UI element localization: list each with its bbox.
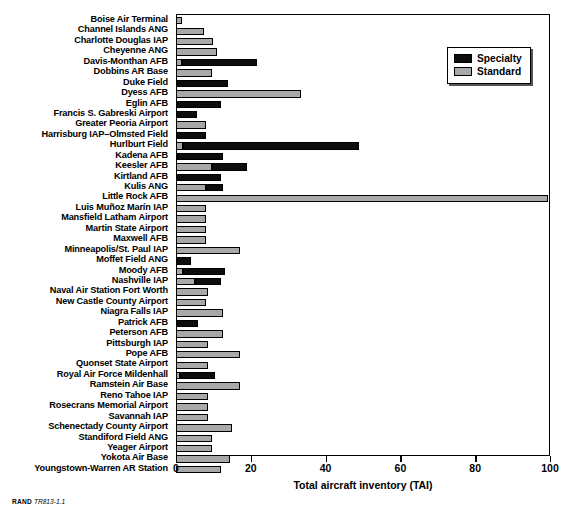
legend-label-specialty: Specialty — [477, 53, 522, 64]
category-label: Pittsburgh IAP — [0, 338, 172, 348]
bar-row — [176, 350, 550, 360]
bar-segment-standard — [176, 121, 206, 128]
category-label: Duke Field — [0, 77, 172, 87]
bar-row — [176, 183, 550, 193]
category-label: Standiford Field ANG — [0, 432, 172, 442]
figure-source-note: RAND TR813-1.1 — [12, 498, 65, 505]
bar-segment-standard — [176, 299, 206, 306]
bar-segment-standard — [176, 163, 212, 170]
bar-row — [176, 392, 550, 402]
bar-row — [176, 371, 550, 381]
x-axis-tick-label: 80 — [469, 462, 481, 474]
bar-segment-standard — [176, 69, 212, 76]
category-label: Moffet Field ANG — [0, 254, 172, 264]
legend-label-standard: Standard — [477, 66, 521, 77]
bar-segment-specialty — [182, 59, 258, 66]
legend-entry-standard: Standard — [454, 65, 522, 78]
bar-segment-standard — [176, 215, 206, 222]
bar-row — [176, 152, 550, 162]
bar-segment-standard — [176, 330, 223, 337]
bar-row — [176, 89, 550, 99]
category-label: Luis Muñoz Marín IAP — [0, 202, 172, 212]
bar-row — [176, 423, 550, 433]
category-label: Dobbins AR Base — [0, 66, 172, 76]
category-label: Greater Peoria Airport — [0, 118, 172, 128]
bar-segment-standard — [176, 184, 206, 191]
category-label: Kulis ANG — [0, 181, 172, 191]
bar-segment-specialty — [176, 80, 228, 87]
bar-segment-specialty — [176, 174, 221, 181]
bar-row — [176, 267, 550, 277]
footer-code: TR813-1.1 — [34, 498, 65, 505]
bar-row — [176, 277, 550, 287]
bar-segment-specialty — [176, 111, 197, 118]
bar-row — [176, 298, 550, 308]
category-label: Boise Air Terminal — [0, 14, 172, 24]
category-label: Nashville IAP — [0, 275, 172, 285]
category-label: Hurlburt Field — [0, 139, 172, 149]
bar-row — [176, 37, 550, 47]
bar-segment-standard — [176, 205, 206, 212]
bar-row — [176, 360, 550, 370]
bar-row — [176, 214, 550, 224]
bar-row — [176, 141, 550, 151]
x-axis-tick-label: 100 — [541, 462, 559, 474]
category-label: Rosecrans Memorial Airport — [0, 400, 172, 410]
bar-row — [176, 173, 550, 183]
bar-segment-standard — [176, 236, 206, 243]
category-label: Mansfield Latham Airport — [0, 212, 172, 222]
bar-segment-standard — [176, 195, 548, 202]
category-label-column: Boise Air TerminalChannel Islands ANGCha… — [0, 14, 172, 473]
bar-row — [176, 235, 550, 245]
category-label: Kirtland AFB — [0, 171, 172, 181]
bar-row — [176, 256, 550, 266]
legend-swatch-specialty-icon — [454, 54, 472, 63]
category-label: Yeager Airport — [0, 442, 172, 452]
bar-row — [176, 131, 550, 141]
category-label: Youngstown-Warren AR Station — [0, 463, 172, 473]
bar-row — [176, 26, 550, 36]
category-label: Cheyenne ANG — [0, 45, 172, 55]
x-axis-tick-label: 60 — [395, 462, 407, 474]
bar-row — [176, 340, 550, 350]
legend-swatch-standard-icon — [454, 67, 472, 76]
bar-segment-standard — [176, 414, 208, 421]
bar-row — [176, 329, 550, 339]
bar-segment-standard — [176, 351, 240, 358]
bar-row — [176, 100, 550, 110]
category-label: Quonset State Airport — [0, 358, 172, 368]
category-label: Yokota Air Base — [0, 452, 172, 462]
bar-segment-specialty — [180, 372, 216, 379]
bar-segment-specialty — [195, 278, 221, 285]
bar-segment-standard — [176, 38, 213, 45]
category-label: Peterson AFB — [0, 327, 172, 337]
category-label: Patrick AFB — [0, 317, 172, 327]
bar-segment-specialty — [206, 184, 223, 191]
bar-segment-standard — [176, 226, 206, 233]
category-label: Minneapolis/St. Paul IAP — [0, 244, 172, 254]
bar-segment-specialty — [176, 101, 221, 108]
category-label: Pope AFB — [0, 348, 172, 358]
bar-row — [176, 444, 550, 454]
bar-segment-standard — [176, 268, 183, 275]
category-label: Ramstein Air Base — [0, 379, 172, 389]
category-label: Channel Islands ANG — [0, 24, 172, 34]
bar-segment-specialty — [176, 257, 191, 264]
bar-segment-standard — [176, 341, 208, 348]
bar-segment-specialty — [176, 132, 206, 139]
bar-segment-specialty — [212, 163, 248, 170]
bar-row — [176, 225, 550, 235]
bar-segment-standard — [176, 17, 182, 24]
bar-segment-standard — [176, 382, 240, 389]
footer-label: RAND — [12, 498, 32, 505]
bar-segment-standard — [176, 48, 217, 55]
bar-row — [176, 193, 550, 203]
category-label: Martin State Airport — [0, 223, 172, 233]
bar-segment-specialty — [178, 153, 223, 160]
category-label: Maxwell AFB — [0, 233, 172, 243]
bar-segment-standard — [176, 362, 208, 369]
bar-row — [176, 308, 550, 318]
bar-segment-standard — [176, 247, 240, 254]
category-label: Dyess AFB — [0, 87, 172, 97]
bar-row — [176, 287, 550, 297]
